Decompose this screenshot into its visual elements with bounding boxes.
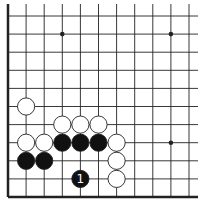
black-stone bbox=[72, 134, 89, 151]
star-point-icon bbox=[169, 32, 174, 37]
star-point-icon bbox=[169, 140, 174, 145]
stones: 1 bbox=[18, 98, 126, 188]
white-stone bbox=[18, 98, 35, 115]
black-stone bbox=[90, 134, 107, 151]
move-number-label: 1 bbox=[77, 172, 85, 186]
white-stone bbox=[36, 134, 53, 151]
star-point-icon bbox=[60, 32, 65, 37]
white-stone bbox=[54, 116, 71, 133]
white-stone bbox=[18, 134, 35, 151]
black-stone bbox=[18, 152, 35, 169]
black-stone bbox=[36, 152, 53, 169]
black-stone bbox=[54, 134, 71, 151]
white-stone bbox=[108, 170, 125, 187]
white-stone bbox=[108, 134, 125, 151]
go-board: 1 bbox=[0, 0, 204, 211]
white-stone bbox=[90, 116, 107, 133]
white-stone bbox=[72, 116, 89, 133]
white-stone bbox=[108, 152, 125, 169]
black-stone: 1 bbox=[72, 170, 89, 187]
